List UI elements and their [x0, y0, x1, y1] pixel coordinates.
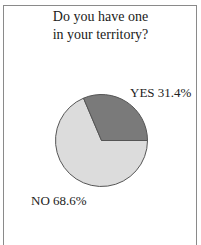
label-no: NO 68.6% [31, 194, 87, 208]
label-yes: YES 31.4% [130, 86, 191, 100]
